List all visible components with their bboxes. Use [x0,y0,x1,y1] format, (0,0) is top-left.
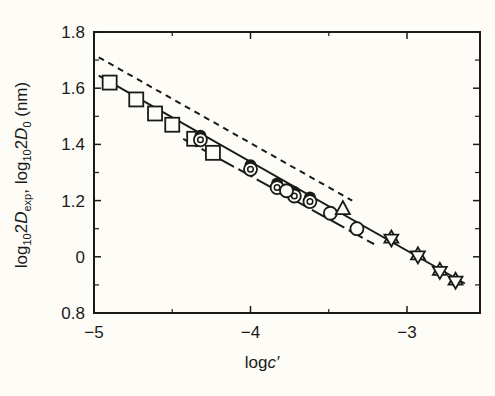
chart: −5−4−30.801.21.41.61.8 logc′ log102Dexp,… [0,0,495,396]
y-tick-label: 1.6 [61,79,85,98]
data-markers [103,76,463,289]
dotted-circle-marker [194,133,207,146]
axis-ticks [94,32,480,313]
triangle-marker [336,201,350,214]
circle-marker [350,222,363,235]
dotted-circle-marker [244,163,257,176]
y-axis-label: log102Dexp, log102D0 (nm) [12,82,33,268]
x-tick-label: −3 [397,323,416,342]
x-tick-label: −4 [241,323,260,342]
fit-line-short-dash [99,57,353,200]
y-tick-label: 0.8 [61,304,85,323]
square-marker [165,118,179,132]
y-tick-label: 1.2 [61,192,85,211]
plot-border [94,32,480,313]
y-tick-label: 1.4 [61,135,85,154]
square-marker [148,106,162,120]
x-tick-label: −5 [84,323,103,342]
circle-marker [280,184,293,197]
tick-labels: −5−4−30.801.21.41.61.8 [61,23,416,342]
x-axis-label: logc′ [245,353,280,372]
square-marker [103,76,117,90]
square-marker [129,92,143,106]
y-tick-label: 1.8 [61,23,85,42]
fit-lines [99,57,465,283]
circle-marker [324,207,337,220]
square-marker [206,146,220,160]
y-tick-label: 0 [76,248,85,267]
dotted-circle-marker [303,195,316,208]
plot-frame [94,32,480,313]
